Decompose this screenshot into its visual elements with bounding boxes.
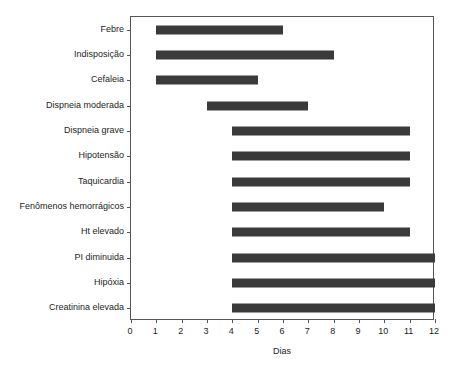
x-axis-tick-7 [308,319,309,323]
x-axis-tick-11 [410,319,411,323]
bar-10 [232,253,435,262]
x-axis-tick-label-5: 5 [254,326,259,336]
bar-1 [156,25,283,34]
x-axis-tick-4 [232,319,233,323]
x-axis-tick-label-11: 11 [404,326,413,336]
x-axis-tick-3 [207,319,208,323]
y-axis-tick-6 [127,156,131,157]
bar-6 [232,152,409,161]
y-axis-labels: FebreIndisposiçãoCefaleiaDispneia modera… [0,0,130,373]
x-axis-tick-label-6: 6 [279,326,284,336]
bar-8 [232,203,384,212]
bar-4 [207,101,308,110]
y-axis-tick-3 [127,80,131,81]
bar-5 [232,127,409,136]
bar-3 [156,76,257,85]
x-axis-tick-12 [435,319,436,323]
y-axis-label-10: PI diminuida [6,252,130,262]
y-axis-tick-5 [127,131,131,132]
x-axis-tick-label-1: 1 [153,326,158,336]
y-axis-label-4: Dispneia moderada [6,100,130,110]
x-axis-tick-label-9: 9 [355,326,360,336]
x-axis-tick-10 [384,319,385,323]
bar-7 [232,177,409,186]
y-axis-tick-2 [127,55,131,56]
bar-12 [232,304,435,313]
x-axis-tick-5 [258,319,259,323]
bar-9 [232,228,409,237]
y-axis-tick-10 [127,258,131,259]
gantt-chart: FebreIndisposiçãoCefaleiaDispneia modera… [0,0,450,373]
y-axis-label-8: Fenômenos hemorrágicos [6,201,130,211]
y-axis-tick-12 [127,308,131,309]
y-axis-tick-4 [127,106,131,107]
y-axis-tick-9 [127,232,131,233]
bar-11 [232,279,435,288]
y-axis-label-2: Indisposição [6,49,130,59]
plot-area [130,16,434,320]
y-axis-tick-11 [127,283,131,284]
y-axis-label-5: Dispneia grave [6,125,130,135]
x-axis-tick-8 [334,319,335,323]
x-axis-tick-0 [131,319,132,323]
x-axis-tick-2 [182,319,183,323]
x-axis-tick-label-12: 12 [429,326,439,336]
y-axis-label-12: Creatinina elevada [6,302,130,312]
y-axis-tick-7 [127,182,131,183]
x-axis-tick-label-4: 4 [229,326,234,336]
x-axis-tick-label-2: 2 [178,326,183,336]
x-axis-tick-6 [283,319,284,323]
x-axis-tick-label-8: 8 [330,326,335,336]
x-axis-title: Dias [130,346,434,356]
y-axis-label-7: Taquicardia [6,176,130,186]
x-axis-tick-label-10: 10 [378,326,388,336]
y-axis-label-11: Hipóxia [6,277,130,287]
x-axis-tick-label-0: 0 [127,326,132,336]
y-axis-label-9: Ht elevado [6,226,130,236]
bar-2 [156,51,333,60]
x-axis-tick-label-3: 3 [203,326,208,336]
x-axis-tick-1 [156,319,157,323]
x-axis-tick-9 [359,319,360,323]
y-axis-label-6: Hipotensão [6,150,130,160]
y-axis-label-3: Cefaleia [6,74,130,84]
y-axis-tick-1 [127,30,131,31]
y-axis-label-1: Febre [6,24,130,34]
y-axis-tick-8 [127,207,131,208]
x-axis-tick-label-7: 7 [305,326,310,336]
